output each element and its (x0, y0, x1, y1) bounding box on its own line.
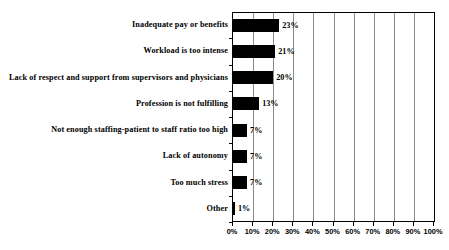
y-axis-tick (229, 38, 232, 39)
bar-wrapper: 21% (233, 38, 435, 64)
category-label: Workload is too intense (144, 38, 228, 64)
bar-wrapper: 23% (233, 12, 435, 38)
x-axis-label: 0% (227, 227, 238, 236)
x-axis-label: 100% (424, 227, 443, 236)
x-axis-tick (312, 222, 313, 226)
bar (233, 97, 259, 110)
x-axis-tick (413, 222, 414, 226)
bar-value-label: 21% (278, 47, 294, 56)
bar-wrapper: 1% (233, 196, 435, 222)
x-axis-tick (373, 222, 374, 226)
y-axis-tick (229, 117, 232, 118)
x-axis-label: 50% (325, 227, 340, 236)
bar (233, 150, 247, 163)
y-axis-tick (229, 222, 232, 223)
bar-wrapper: 7% (233, 143, 435, 169)
category-label: Profession is not fulfilling (136, 91, 228, 117)
category-label: Inadequate pay or benefits (132, 12, 228, 38)
y-axis-tick (229, 65, 232, 66)
x-axis-tick (433, 222, 434, 226)
bar-wrapper: 7% (233, 170, 435, 196)
x-axis-tick (272, 222, 273, 226)
bar-value-label: 7% (250, 126, 262, 135)
y-axis-tick (229, 143, 232, 144)
bar-value-label: 1% (238, 204, 250, 213)
bar (233, 176, 247, 189)
y-axis-tick (229, 91, 232, 92)
x-axis-tick (353, 222, 354, 226)
bar-value-label: 13% (262, 99, 278, 108)
chart-row: Workload is too intense21% (0, 38, 449, 64)
bar (233, 202, 235, 215)
bar-value-label: 7% (250, 152, 262, 161)
y-axis-tick (229, 196, 232, 197)
x-axis-label: 10% (245, 227, 260, 236)
chart-row: Lack of respect and support from supervi… (0, 65, 449, 91)
x-axis-tick (232, 222, 233, 226)
category-label: Other (207, 196, 228, 222)
chart-row: Too much stress7% (0, 170, 449, 196)
chart-row: Profession is not fulfilling13% (0, 91, 449, 117)
bar-wrapper: 13% (233, 91, 435, 117)
x-axis-label: 80% (385, 227, 400, 236)
x-axis-label: 40% (305, 227, 320, 236)
category-label: Not enough staffing-patient to staff rat… (51, 117, 228, 143)
x-axis-tick (292, 222, 293, 226)
x-axis-label: 90% (405, 227, 420, 236)
chart-row: Other1% (0, 196, 449, 222)
x-axis-label: 60% (345, 227, 360, 236)
bar-chart: Inadequate pay or benefits23%Workload is… (0, 0, 449, 250)
category-label: Lack of autonomy (163, 143, 228, 169)
x-axis-label: 70% (365, 227, 380, 236)
bar-wrapper: 20% (233, 65, 435, 91)
chart-row: Lack of autonomy7% (0, 143, 449, 169)
x-axis-label: 20% (265, 227, 280, 236)
category-label: Too much stress (171, 170, 228, 196)
bar-value-label: 7% (250, 178, 262, 187)
category-label: Lack of respect and support from supervi… (9, 65, 228, 91)
bar-value-label: 23% (282, 21, 298, 30)
x-axis-tick (393, 222, 394, 226)
bar (233, 71, 273, 84)
x-axis-label: 30% (285, 227, 300, 236)
y-axis-tick (229, 170, 232, 171)
x-axis-labels: 0%10%20%30%40%50%60%70%80%90%100% (232, 227, 435, 239)
chart-row: Inadequate pay or benefits23% (0, 12, 449, 38)
bar (233, 45, 275, 58)
bar-value-label: 20% (276, 73, 292, 82)
x-axis-tick (333, 222, 334, 226)
chart-row: Not enough staffing-patient to staff rat… (0, 117, 449, 143)
bar (233, 124, 247, 137)
chart-rows: Inadequate pay or benefits23%Workload is… (0, 12, 449, 222)
bar (233, 19, 279, 32)
bar-wrapper: 7% (233, 117, 435, 143)
x-axis-tick (252, 222, 253, 226)
